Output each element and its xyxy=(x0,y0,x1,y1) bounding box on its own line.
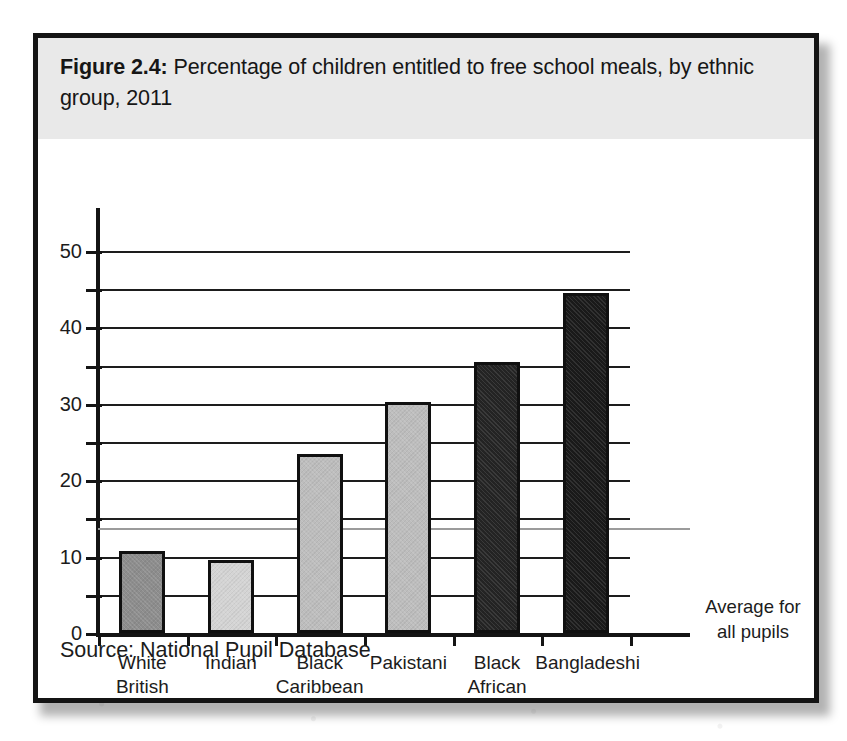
gridline-minor xyxy=(98,442,630,444)
figure-source: Source: National Pupil Database xyxy=(60,638,371,663)
x-axis-category-label-line: Bangladeshi xyxy=(535,651,636,675)
y-axis-tick-minor xyxy=(86,518,102,521)
average-annotation-line-2: all pupils xyxy=(694,619,812,644)
y-axis-tick-label: 40 xyxy=(38,316,82,339)
bar-texture xyxy=(300,457,340,630)
scanned-page: Figure 2.4: Percentage of children entit… xyxy=(0,0,847,741)
figure-title-band: Figure 2.4: Percentage of children entit… xyxy=(38,38,814,139)
bar-texture xyxy=(477,365,517,630)
x-axis-category-label: Bangladeshi xyxy=(535,651,636,675)
y-axis-tick-label: 10 xyxy=(38,545,82,568)
bar xyxy=(119,551,165,634)
x-axis-category-label: BlackAfrican xyxy=(447,651,548,699)
figure-container: Figure 2.4: Percentage of children entit… xyxy=(33,33,819,703)
figure-number: Figure 2.4: xyxy=(60,55,168,79)
bar-texture xyxy=(388,405,428,630)
y-axis-tick-major xyxy=(86,480,102,483)
bar xyxy=(385,402,431,633)
bar xyxy=(474,362,520,633)
gridline-minor xyxy=(98,595,630,597)
y-axis-tick-minor xyxy=(86,442,102,445)
y-axis-tick-minor xyxy=(86,366,102,369)
x-axis-category-label-line: Black xyxy=(447,651,548,675)
bar-texture xyxy=(566,296,606,630)
y-axis-tick-label: 20 xyxy=(38,469,82,492)
gridline-major xyxy=(98,404,630,406)
x-axis-category-label-line: Caribbean xyxy=(269,675,370,699)
x-axis-tick xyxy=(453,633,456,646)
x-axis-category-label-line: Pakistani xyxy=(358,651,459,675)
gridline-minor xyxy=(98,289,630,291)
y-axis-tick-label: 50 xyxy=(38,240,82,263)
y-axis-tick-major xyxy=(86,251,102,254)
x-axis-tick xyxy=(541,633,544,646)
average-annotation-label: Average for all pupils xyxy=(694,594,812,644)
x-axis-category-label: Pakistani xyxy=(358,651,459,675)
y-axis-tick-minor xyxy=(86,289,102,292)
bar-texture xyxy=(122,554,162,631)
gridline-major xyxy=(98,327,630,329)
x-axis-category-label-line: African xyxy=(447,675,548,699)
x-axis-category-label-line: British xyxy=(92,675,193,699)
gridline-minor xyxy=(98,366,630,368)
bar xyxy=(297,454,343,633)
y-axis-tick-major xyxy=(86,327,102,330)
y-axis-tick-major xyxy=(86,557,102,560)
x-axis-tick xyxy=(630,633,633,646)
bar-texture xyxy=(211,563,251,630)
y-axis-tick-major xyxy=(86,404,102,407)
average-annotation-line-1: Average for xyxy=(694,594,812,619)
gridline-major xyxy=(98,480,630,482)
bar xyxy=(563,293,609,633)
chart-plot-area: Average for all pupils 01020304050WhiteB… xyxy=(38,139,814,698)
y-axis-tick-minor xyxy=(86,595,102,598)
x-axis-spine xyxy=(96,633,690,637)
figure-title: Figure 2.4: Percentage of children entit… xyxy=(60,52,794,114)
y-axis-tick-label: 30 xyxy=(38,392,82,415)
y-axis-spine xyxy=(96,208,100,635)
gridline-major xyxy=(98,557,630,559)
gridline-major xyxy=(98,251,630,253)
gridline-minor xyxy=(98,518,630,520)
bar xyxy=(208,560,254,633)
